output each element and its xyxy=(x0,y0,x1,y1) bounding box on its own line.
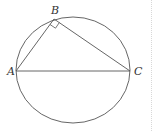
segment-ab xyxy=(16,19,54,71)
label-c: C xyxy=(134,65,143,78)
inscribed-triangle-diagram: B A C xyxy=(0,0,154,131)
right-angle-marker xyxy=(50,23,59,29)
circumcircle xyxy=(16,17,130,123)
label-a: A xyxy=(6,65,15,78)
label-b: B xyxy=(50,4,59,17)
dotted-border xyxy=(150,0,152,131)
segment-bc xyxy=(54,19,130,71)
diagram-canvas: B A C xyxy=(0,0,154,131)
